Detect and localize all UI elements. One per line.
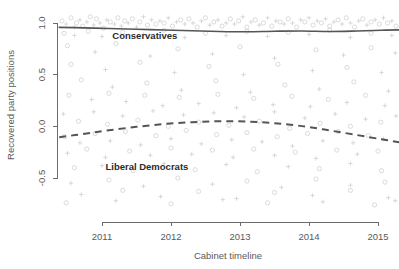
scatter-point bbox=[279, 185, 283, 189]
scatter-point bbox=[174, 20, 178, 24]
scatter-point bbox=[270, 24, 274, 28]
scatter-point bbox=[383, 180, 387, 184]
scatter-point bbox=[340, 22, 344, 26]
scatter-point bbox=[245, 179, 249, 183]
scatter-point bbox=[321, 139, 325, 143]
scatter-point bbox=[386, 89, 390, 93]
scatter-point bbox=[260, 140, 264, 144]
scatter-point bbox=[361, 17, 365, 21]
scatter-point bbox=[207, 64, 211, 68]
scatter-point bbox=[197, 189, 201, 193]
scatter-point bbox=[363, 93, 367, 97]
y-tick-label: 1.0 bbox=[36, 16, 47, 29]
scatter-point bbox=[214, 133, 218, 137]
scatter-point bbox=[249, 20, 253, 24]
scatter-point bbox=[306, 131, 310, 135]
tick-labels-layer: 1.00.50.0-0.520112012201320142015 bbox=[36, 16, 389, 242]
scatter-point bbox=[216, 18, 220, 22]
scatter-point bbox=[158, 194, 162, 198]
scatter-point bbox=[307, 32, 311, 36]
scatter-point bbox=[376, 149, 380, 153]
scatter-point bbox=[228, 17, 232, 21]
scatter-point bbox=[318, 121, 322, 125]
scatter-point bbox=[265, 16, 269, 20]
scatter-point bbox=[253, 18, 257, 22]
scatter-point bbox=[241, 15, 245, 19]
scatter-point bbox=[93, 50, 97, 54]
scatter-point bbox=[207, 23, 211, 27]
scatter-point bbox=[149, 18, 153, 22]
scatter-point bbox=[190, 152, 194, 156]
scatter-point bbox=[348, 21, 352, 25]
scatter-point bbox=[176, 47, 180, 51]
scatter-point bbox=[88, 15, 92, 19]
scatter-point bbox=[394, 114, 398, 118]
scatter-point bbox=[214, 79, 218, 83]
scatter-point bbox=[257, 23, 261, 27]
scatter-point bbox=[377, 22, 381, 26]
scatter-point bbox=[307, 16, 311, 20]
scatter-point bbox=[348, 35, 352, 39]
scatter-point bbox=[210, 148, 214, 152]
scatter-point bbox=[248, 90, 252, 94]
scatter-point bbox=[348, 188, 352, 192]
scatter-point bbox=[332, 20, 336, 24]
scatter-point bbox=[245, 130, 249, 134]
scatter-point bbox=[199, 142, 203, 146]
scatter-point bbox=[103, 155, 107, 159]
scatter-point bbox=[317, 87, 321, 91]
scatter-point bbox=[310, 68, 314, 72]
scatter-point bbox=[79, 78, 83, 82]
scatter-point bbox=[336, 18, 340, 22]
scatter-point bbox=[299, 18, 303, 22]
scatter-point bbox=[177, 95, 181, 99]
scatter-point bbox=[85, 147, 89, 151]
scatter-point bbox=[114, 42, 118, 46]
scatter-point bbox=[187, 17, 191, 21]
scatter-point bbox=[108, 20, 112, 24]
scatter-point bbox=[176, 176, 180, 180]
scatter-point bbox=[210, 52, 214, 56]
scatter-point bbox=[112, 22, 116, 26]
scatter-point bbox=[193, 168, 197, 172]
x-tick-label: 2014 bbox=[298, 231, 319, 242]
scatter-point bbox=[344, 16, 348, 20]
scatter-point bbox=[116, 16, 120, 20]
x-tick-label: 2012 bbox=[160, 231, 181, 242]
scatter-point bbox=[363, 117, 367, 121]
series-annotations-layer: ConservativesLiberal Democrats bbox=[105, 30, 188, 172]
scatter-point bbox=[393, 51, 397, 55]
scatter-point bbox=[241, 72, 245, 76]
scatter-point bbox=[136, 118, 140, 122]
scatter-point bbox=[341, 53, 345, 57]
scatter-point bbox=[72, 33, 76, 37]
scatter-point bbox=[369, 31, 373, 35]
scatter-point bbox=[348, 124, 352, 128]
scatter-point bbox=[138, 60, 142, 64]
scatter-point bbox=[121, 114, 125, 118]
scatter-point bbox=[107, 178, 111, 182]
scatter-point bbox=[286, 17, 290, 21]
scatter-point bbox=[266, 201, 270, 205]
scatter-point bbox=[103, 67, 107, 71]
scatter-point bbox=[308, 105, 312, 109]
scatter-point bbox=[242, 115, 246, 119]
scatter-point bbox=[76, 119, 80, 123]
scatter-point bbox=[393, 199, 397, 203]
scatter-point bbox=[326, 97, 330, 101]
scatter-point bbox=[390, 19, 394, 23]
scatter-point bbox=[100, 163, 104, 167]
y-tick-label: 0.0 bbox=[36, 120, 47, 133]
trend-lines-layer bbox=[59, 27, 399, 142]
scatter-point bbox=[369, 46, 373, 50]
scatter-point bbox=[282, 22, 286, 26]
scatter-point bbox=[290, 144, 294, 148]
scatter-point bbox=[303, 116, 307, 120]
scatter-point bbox=[310, 193, 314, 197]
scatter-point bbox=[345, 65, 349, 69]
scatter-point bbox=[145, 23, 149, 27]
scatter-point bbox=[170, 24, 174, 28]
x-axis-title: Cabinet timeline bbox=[194, 250, 262, 261]
scatter-point bbox=[227, 123, 231, 127]
series-annotation-liberal-democrats: Liberal Democrats bbox=[105, 161, 188, 172]
